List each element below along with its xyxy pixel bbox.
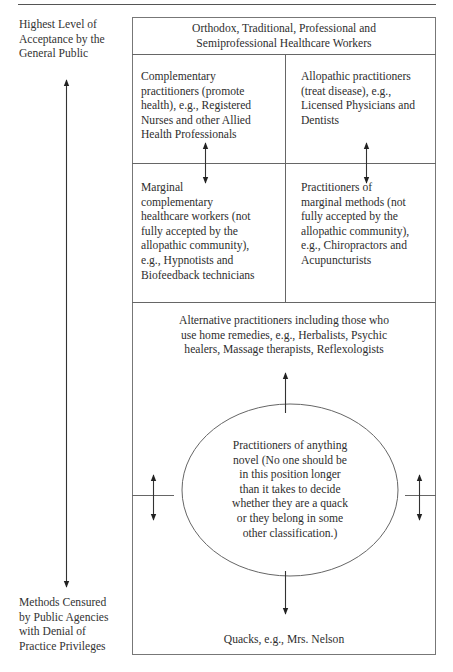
novel-ellipse — [182, 404, 398, 576]
diagram-lines — [0, 0, 453, 672]
